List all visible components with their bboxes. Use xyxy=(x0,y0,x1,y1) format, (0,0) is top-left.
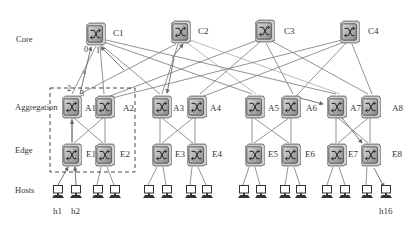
switch-icon xyxy=(245,144,265,166)
switch-label: E8 xyxy=(392,149,402,159)
host-icon-h13[interactable] xyxy=(321,186,333,199)
host-label-h2: h2 xyxy=(71,206,80,216)
tier-label-aggregation: Aggregation xyxy=(15,102,58,112)
aggregation-edge-links xyxy=(72,118,370,143)
switch-label: A7 xyxy=(350,103,361,113)
aggregation-switch-a1[interactable]: A1 xyxy=(62,96,96,118)
host-icon-h6[interactable] xyxy=(161,186,173,199)
aggregation-switch-a8[interactable]: A8 xyxy=(361,96,403,118)
switch-label: E1 xyxy=(86,149,96,159)
switch-label: A6 xyxy=(306,103,317,113)
aggregation-switch-a5[interactable]: A5 xyxy=(245,96,279,118)
switch-icon xyxy=(327,144,347,166)
host-icon-h9[interactable] xyxy=(238,186,250,199)
port-label-1: 1 xyxy=(96,46,100,55)
switch-label: E5 xyxy=(268,149,278,159)
switch-icon xyxy=(245,96,265,118)
fat-tree-diagram: × Core Aggregation Edge Hosts C1 C2 C3 C… xyxy=(0,0,412,226)
host-icon-h4[interactable] xyxy=(109,186,121,199)
edge-switch-e6[interactable]: E6 xyxy=(281,144,315,166)
switch-label: E3 xyxy=(175,149,185,159)
switch-icon xyxy=(171,21,191,43)
port-label-2: 2 xyxy=(67,84,71,93)
switch-label: A5 xyxy=(268,103,279,113)
edge-host-links xyxy=(58,167,367,185)
host-icon-h16[interactable] xyxy=(380,186,392,199)
edge-switch-e4[interactable]: E4 xyxy=(187,144,222,166)
aggregation-switch-a4[interactable]: A4 xyxy=(187,96,221,118)
switch-label: C3 xyxy=(284,26,295,36)
switch-label: A4 xyxy=(210,103,221,113)
aggregation-switch-a2[interactable]: A2 xyxy=(95,96,134,118)
edge-switch-e1[interactable]: E1 xyxy=(62,144,96,166)
host-label-h16: h16 xyxy=(379,206,393,216)
edge-switch-e5[interactable]: E5 xyxy=(245,144,278,166)
switch-label: C4 xyxy=(368,26,379,36)
host-icon-h8[interactable] xyxy=(201,186,213,199)
tier-label-core: Core xyxy=(16,34,33,44)
host-icon-h5[interactable] xyxy=(143,186,155,199)
switch-label: E6 xyxy=(305,149,315,159)
host-icon-h12[interactable] xyxy=(295,186,307,199)
core-switch-c4[interactable]: C4 xyxy=(340,21,379,43)
switch-icon xyxy=(361,96,381,118)
port-label-0: 0 xyxy=(84,45,88,54)
switch-icon xyxy=(327,96,347,118)
aggregation-switch-a6[interactable]: A6 xyxy=(281,96,317,118)
switch-icon xyxy=(187,96,207,118)
switch-icon xyxy=(62,96,82,118)
edge-switch-e8[interactable]: E8 xyxy=(361,144,402,166)
tier-label-edge: Edge xyxy=(15,145,33,155)
hosts-row xyxy=(52,186,392,199)
edge-switch-e7[interactable]: E7 xyxy=(327,144,358,166)
host-icon-h15[interactable] xyxy=(361,186,373,199)
switch-icon xyxy=(340,21,360,43)
switch-label: A2 xyxy=(123,103,134,113)
core-switch-c1[interactable]: C1 xyxy=(86,23,124,45)
host-icon-h2[interactable] xyxy=(70,186,82,199)
switch-icon xyxy=(152,144,172,166)
switch-label: A3 xyxy=(173,103,184,113)
switch-icon xyxy=(281,96,301,118)
host-icon-h14[interactable] xyxy=(339,186,351,199)
switch-icon xyxy=(152,96,172,118)
switch-label: A1 xyxy=(85,103,96,113)
edge-switch-e3[interactable]: E3 xyxy=(152,144,185,166)
core-aggregation-links xyxy=(72,40,372,98)
switch-label: A8 xyxy=(392,103,403,113)
switch-icon xyxy=(281,144,301,166)
failed-link-marker: × xyxy=(82,68,87,77)
host-icon-h3[interactable] xyxy=(92,186,104,199)
core-switch-c2[interactable]: C2 xyxy=(171,21,209,43)
switch-icon xyxy=(95,96,115,118)
host-label-h1: h1 xyxy=(53,206,62,216)
switch-icon xyxy=(62,144,82,166)
edge-switch-e2[interactable]: E2 xyxy=(95,144,130,166)
host-icon-h7[interactable] xyxy=(185,186,197,199)
switch-label: C1 xyxy=(113,28,124,38)
switch-label: C2 xyxy=(198,26,209,36)
tier-label-hosts: Hosts xyxy=(15,185,34,195)
switch-label: E7 xyxy=(348,149,358,159)
switch-label: E2 xyxy=(120,149,130,159)
host-icon-h11[interactable] xyxy=(279,186,291,199)
switch-label: E4 xyxy=(212,149,222,159)
host-icon-h10[interactable] xyxy=(255,186,267,199)
aggregation-switch-a3[interactable]: A3 xyxy=(152,96,184,118)
core-switch-c3[interactable]: C3 xyxy=(255,20,295,42)
switch-icon xyxy=(86,23,106,45)
switch-icon xyxy=(187,144,207,166)
host-icon-h1[interactable] xyxy=(52,186,64,199)
aggregation-switch-a7[interactable]: A7 xyxy=(327,96,361,118)
switch-icon xyxy=(255,20,275,42)
switch-icon xyxy=(361,144,381,166)
switch-icon xyxy=(95,144,115,166)
